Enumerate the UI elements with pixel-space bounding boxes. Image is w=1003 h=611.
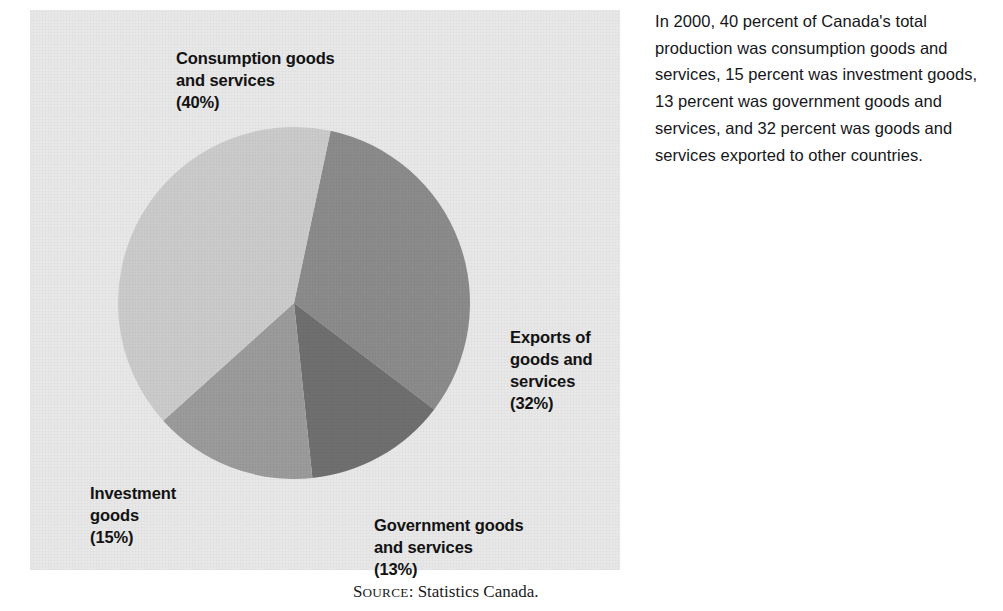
pie-slice-label-consumption: Consumption goods and services (40%): [176, 48, 335, 114]
caption-text: In 2000, 40 percent of Canada's total pr…: [655, 8, 985, 168]
figure-root: Consumption goods and services (40%) Exp…: [0, 0, 1003, 611]
source-note-smallcaps: OURCE: [362, 585, 408, 600]
pie-slice-label-investment: Investment goods (15%): [90, 483, 176, 549]
chart-panel: Consumption goods and services (40%) Exp…: [30, 10, 620, 570]
pie-svg: [118, 127, 470, 479]
pie-slice-label-government: Government goods and services (13%): [374, 515, 524, 581]
source-note-rest: : Statistics Canada.: [409, 582, 539, 601]
pie-chart: [118, 127, 470, 479]
pie-slice-label-exports: Exports of goods and services (32%): [510, 327, 593, 415]
source-note: SOURCE: Statistics Canada.: [353, 582, 539, 602]
caption-column: In 2000, 40 percent of Canada's total pr…: [655, 8, 985, 168]
